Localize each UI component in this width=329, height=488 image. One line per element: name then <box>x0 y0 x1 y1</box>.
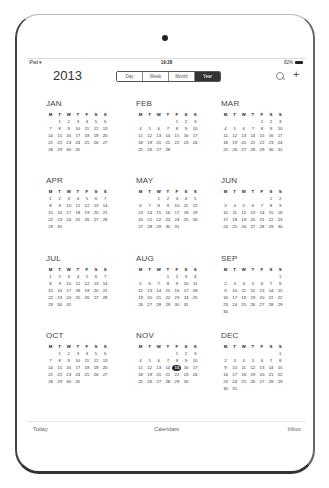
day-cell[interactable]: 20 <box>248 217 257 223</box>
tab-year[interactable]: Year <box>195 72 220 81</box>
day-cell[interactable]: 27 <box>257 302 266 308</box>
day-cell[interactable]: 5 <box>191 196 200 202</box>
day-cell[interactable]: 24 <box>73 372 82 378</box>
day-cell[interactable]: 30 <box>266 147 275 153</box>
day-cell[interactable]: 26 <box>82 217 91 223</box>
day-cell[interactable]: 4 <box>73 274 82 280</box>
day-cell[interactable]: 6 <box>91 274 100 280</box>
day-cell[interactable]: 27 <box>239 147 248 153</box>
day-cell[interactable]: 7 <box>46 358 55 364</box>
day-cell[interactable]: 11 <box>191 281 200 287</box>
day-cell[interactable]: 7 <box>248 126 257 132</box>
day-cell[interactable]: 23 <box>181 372 190 378</box>
day-cell[interactable]: 6 <box>239 126 248 132</box>
day-cell[interactable]: 3 <box>276 119 285 125</box>
day-cell[interactable]: 25 <box>136 379 145 385</box>
day-cell[interactable]: 6 <box>154 126 163 132</box>
day-cell[interactable]: 31 <box>73 147 82 153</box>
day-cell[interactable]: 17 <box>221 217 230 223</box>
day-cell[interactable]: 18 <box>181 210 190 216</box>
day-cell[interactable]: 2 <box>221 281 230 287</box>
day-cell[interactable]: 9 <box>276 203 285 209</box>
day-cell[interactable]: 22 <box>163 295 172 301</box>
day-cell[interactable]: 14 <box>266 365 275 371</box>
day-cell[interactable]: 19 <box>191 210 200 216</box>
day-cell[interactable]: 19 <box>82 210 91 216</box>
day-cell[interactable]: 26 <box>145 379 154 385</box>
day-cell[interactable]: 22 <box>46 217 55 223</box>
day-cell[interactable]: 5 <box>239 203 248 209</box>
day-cell[interactable]: 31 <box>276 147 285 153</box>
day-cell[interactable]: 13 <box>101 126 110 132</box>
day-cell[interactable]: 2 <box>163 196 172 202</box>
day-cell[interactable]: 16 <box>181 365 190 371</box>
day-cell[interactable]: 12 <box>248 288 257 294</box>
day-cell[interactable]: 4 <box>221 126 230 132</box>
day-cell[interactable]: 17 <box>181 288 190 294</box>
day-cell[interactable]: 5 <box>248 358 257 364</box>
day-cell[interactable]: 8 <box>154 203 163 209</box>
day-cell[interactable]: 31 <box>64 302 73 308</box>
day-cell[interactable]: 25 <box>191 295 200 301</box>
day-cell[interactable]: 8 <box>55 126 64 132</box>
day-cell[interactable]: 17 <box>230 295 239 301</box>
day-cell[interactable]: 18 <box>73 288 82 294</box>
day-cell[interactable]: 22 <box>55 140 64 146</box>
month-nov[interactable]: NOVMTWTFSS123456789101112131415161718192… <box>136 331 216 385</box>
day-cell[interactable]: 6 <box>101 119 110 125</box>
day-cell[interactable]: 21 <box>101 210 110 216</box>
day-cell[interactable]: 21 <box>163 140 172 146</box>
day-cell[interactable]: 19 <box>248 372 257 378</box>
day-cell[interactable]: 17 <box>276 133 285 139</box>
day-cell[interactable]: 14 <box>266 288 275 294</box>
day-cell[interactable]: 5 <box>230 126 239 132</box>
day-cell[interactable]: 3 <box>191 119 200 125</box>
day-cell[interactable]: 22 <box>46 295 55 301</box>
day-cell[interactable]: 22 <box>55 372 64 378</box>
day-cell[interactable]: 29 <box>55 379 64 385</box>
day-cell[interactable]: 19 <box>230 140 239 146</box>
day-cell[interactable]: 24 <box>73 140 82 146</box>
day-cell[interactable]: 12 <box>136 288 145 294</box>
tab-day[interactable]: Day <box>117 72 143 81</box>
day-cell[interactable]: 28 <box>154 302 163 308</box>
month-mar[interactable]: MARMTWTFSS123456789101112131415161718192… <box>221 99 301 153</box>
day-cell[interactable]: 28 <box>266 379 275 385</box>
day-cell[interactable]: 26 <box>191 217 200 223</box>
day-cell[interactable]: 15 <box>276 365 285 371</box>
day-cell[interactable]: 20 <box>101 133 110 139</box>
day-cell[interactable]: 28 <box>163 147 172 153</box>
day-cell[interactable]: 25 <box>181 217 190 223</box>
day-cell[interactable]: 23 <box>276 217 285 223</box>
day-cell[interactable]: 24 <box>230 379 239 385</box>
day-cell[interactable]: 9 <box>64 358 73 364</box>
day-cell[interactable]: 22 <box>276 295 285 301</box>
day-cell[interactable]: 2 <box>55 274 64 280</box>
day-cell[interactable]: 19 <box>239 217 248 223</box>
day-cell[interactable]: 18 <box>82 133 91 139</box>
day-cell[interactable]: 15 <box>46 210 55 216</box>
day-cell[interactable]: 30 <box>55 224 64 230</box>
day-cell[interactable]: 9 <box>172 281 181 287</box>
day-cell[interactable]: 11 <box>230 210 239 216</box>
day-cell[interactable]: 23 <box>172 295 181 301</box>
day-cell[interactable]: 29 <box>55 147 64 153</box>
day-cell[interactable]: 28 <box>145 224 154 230</box>
day-cell[interactable]: 13 <box>91 203 100 209</box>
day-cell[interactable]: 24 <box>181 295 190 301</box>
month-jan[interactable]: JANMTWTFSS123456789101112131415161718192… <box>46 99 126 153</box>
day-cell[interactable]: 16 <box>221 295 230 301</box>
day-cell[interactable]: 16 <box>221 372 230 378</box>
day-cell[interactable]: 8 <box>55 358 64 364</box>
day-cell[interactable]: 22 <box>257 140 266 146</box>
day-cell[interactable]: 9 <box>221 288 230 294</box>
day-cell[interactable]: 23 <box>55 295 64 301</box>
day-cell[interactable]: 26 <box>230 147 239 153</box>
month-apr[interactable]: APRMTWTFSS123456789101112131415161718192… <box>46 176 126 230</box>
day-cell[interactable]: 4 <box>82 351 91 357</box>
today-day-cell[interactable]: 15 <box>172 365 181 371</box>
day-cell[interactable]: 18 <box>73 210 82 216</box>
day-cell[interactable]: 10 <box>191 358 200 364</box>
day-cell[interactable]: 7 <box>163 358 172 364</box>
day-cell[interactable]: 23 <box>221 379 230 385</box>
